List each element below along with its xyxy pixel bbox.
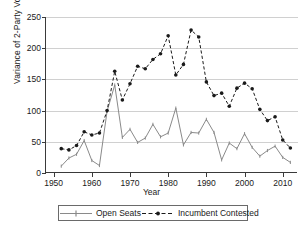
- x-tick-mark: [130, 173, 131, 177]
- y-tick-label: 100: [27, 106, 41, 116]
- data-point: [174, 73, 178, 77]
- y-tick-label: 250: [27, 12, 41, 22]
- data-point: [143, 67, 147, 71]
- data-point: [250, 87, 254, 91]
- data-point: [258, 108, 262, 112]
- legend-swatch-open-seats: [59, 209, 93, 218]
- data-point: [121, 98, 125, 102]
- y-axis-title: Variance of 2-Party Vote: [12, 0, 22, 112]
- legend-item-open-seats[interactable]: Open Seats: [59, 208, 141, 218]
- series-incumbent-contested: [59, 28, 292, 151]
- data-point: [128, 82, 132, 86]
- data-point: [105, 109, 109, 113]
- x-axis-title: Year: [0, 187, 303, 197]
- x-tick-mark: [206, 173, 207, 177]
- chart-legend: Open Seats Incumbent Contested: [58, 205, 248, 221]
- data-point: [220, 91, 224, 95]
- series-open-seats: [61, 83, 290, 167]
- legend-label-incumbent-contested: Incumbent Contested: [178, 208, 259, 218]
- data-point: [98, 131, 102, 135]
- data-point: [197, 35, 201, 39]
- legend-item-incumbent-contested[interactable]: Incumbent Contested: [141, 208, 259, 218]
- y-tick-label: 50: [32, 137, 41, 147]
- x-tick-mark: [245, 173, 246, 177]
- data-point: [82, 130, 86, 134]
- series-line: [61, 30, 290, 150]
- data-point: [281, 138, 285, 142]
- data-point: [136, 65, 140, 69]
- data-point: [212, 94, 216, 98]
- data-point: [235, 86, 239, 90]
- data-point: [59, 147, 63, 151]
- series-layer: [46, 17, 298, 173]
- y-tick-label: 200: [27, 43, 41, 53]
- data-point: [227, 104, 231, 108]
- data-point: [166, 34, 170, 38]
- x-tick-mark: [92, 173, 93, 177]
- data-point: [205, 80, 209, 84]
- data-point: [266, 119, 270, 123]
- x-tick-mark: [54, 173, 55, 177]
- legend-swatch-incumbent-contested: [141, 209, 175, 218]
- series-line: [61, 85, 290, 166]
- data-point: [189, 28, 193, 32]
- x-tick-mark: [168, 173, 169, 177]
- y-tick-label: 0: [36, 168, 41, 178]
- data-point: [243, 81, 247, 85]
- data-point: [90, 133, 94, 137]
- legend-label-open-seats: Open Seats: [96, 208, 141, 218]
- data-point: [182, 63, 186, 67]
- y-tick-mark: [42, 173, 46, 174]
- data-point: [273, 115, 277, 119]
- x-tick-mark: [283, 173, 284, 177]
- data-point: [75, 144, 79, 148]
- data-point: [159, 52, 163, 56]
- data-point: [151, 58, 155, 62]
- variance-of-two-party-vote-chart: Variance of 2-Party Vote 050100150200250…: [0, 0, 303, 228]
- data-point: [67, 148, 71, 152]
- data-point: [289, 146, 293, 150]
- plot-area: 050100150200250 195019601970198019902000…: [45, 17, 297, 173]
- data-point: [113, 69, 117, 73]
- y-tick-label: 150: [27, 74, 41, 84]
